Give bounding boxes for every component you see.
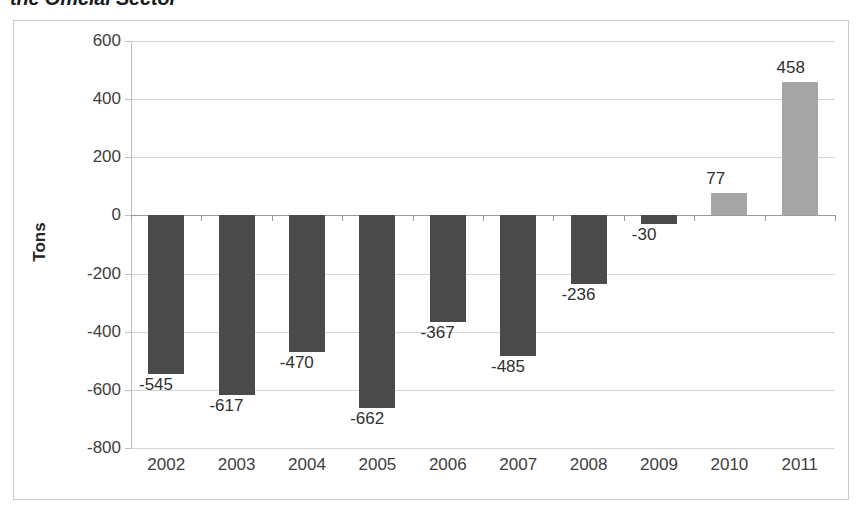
x-axis-tick-mark <box>483 215 484 221</box>
x-axis-tick-label: 2009 <box>624 455 694 475</box>
x-axis-tick-label: 2010 <box>694 455 764 475</box>
x-axis-tick-labels: 2002200320042005200620072008200920102011 <box>131 455 835 485</box>
x-axis-tick-mark <box>201 215 202 221</box>
x-axis-tick-label: 2005 <box>342 455 412 475</box>
y-axis-tick-mark <box>125 448 131 449</box>
x-axis-tick-label: 2007 <box>483 455 553 475</box>
bar[interactable] <box>430 215 466 322</box>
x-axis-tick-mark <box>624 215 625 221</box>
bar[interactable] <box>359 215 395 407</box>
gridline <box>131 448 835 449</box>
bar-data-label: -485 <box>491 357 525 377</box>
x-axis-tick-mark <box>272 215 273 221</box>
y-axis-tick-mark <box>125 41 131 42</box>
bar-data-label: -662 <box>350 409 384 429</box>
bar-data-label: -30 <box>632 225 657 245</box>
bar[interactable] <box>289 215 325 352</box>
x-axis-tick-label: 2003 <box>201 455 271 475</box>
y-axis-tick-mark <box>125 157 131 158</box>
bar-slot: -30 <box>624 41 694 448</box>
bar-data-label: -367 <box>421 323 455 343</box>
x-axis-tick-mark <box>413 215 414 221</box>
y-axis-tick-label: -800 <box>41 438 121 458</box>
bar-slot: -662 <box>342 41 412 448</box>
bar-data-label: 77 <box>706 169 725 189</box>
bar[interactable] <box>782 82 818 215</box>
bar-slot: 458 <box>765 41 835 448</box>
y-axis-tick-mark <box>125 274 131 275</box>
bar[interactable] <box>219 215 255 394</box>
y-axis-tick-mark <box>125 332 131 333</box>
x-axis-tick-mark <box>765 215 766 221</box>
bar-data-label: -617 <box>209 396 243 416</box>
bar-slot: -470 <box>272 41 342 448</box>
x-axis-tick-label: 2006 <box>413 455 483 475</box>
y-axis-tick-label: -400 <box>41 322 121 342</box>
bar-slot: -485 <box>483 41 553 448</box>
bar[interactable] <box>148 215 184 373</box>
x-axis-tick-mark <box>835 215 836 221</box>
x-axis-tick-label: 2004 <box>272 455 342 475</box>
y-axis-tick-label: -200 <box>41 264 121 284</box>
x-axis-tick-label: 2008 <box>553 455 623 475</box>
chart-title: the Official Sector <box>10 0 177 10</box>
y-axis-tick-mark <box>125 99 131 100</box>
y-axis-tick-label: 600 <box>41 31 121 51</box>
x-axis-tick-mark <box>342 215 343 221</box>
y-axis-tick-label: 400 <box>41 89 121 109</box>
bar[interactable] <box>711 193 747 215</box>
y-axis-tick-labels: 6004002000-200-400-600-800 <box>41 41 121 448</box>
bar[interactable] <box>500 215 536 356</box>
bar[interactable] <box>571 215 607 284</box>
x-axis-tick-label: 2011 <box>765 455 835 475</box>
x-axis-tick-label: 2002 <box>131 455 201 475</box>
bar-slot: 77 <box>694 41 764 448</box>
y-axis-tick-label: -600 <box>41 380 121 400</box>
bar-series: -545-617-470-662-367-485-236-3077458 <box>131 41 835 448</box>
bar-data-label: -545 <box>139 375 173 395</box>
bar-data-label: -236 <box>561 285 595 305</box>
x-axis-tick-mark <box>694 215 695 221</box>
bar[interactable] <box>641 215 677 224</box>
bar-data-label: -470 <box>280 353 314 373</box>
y-axis-tick-label: 0 <box>41 205 121 225</box>
bar-slot: -617 <box>201 41 271 448</box>
x-axis-tick-mark <box>131 215 132 221</box>
y-axis-tick-label: 200 <box>41 147 121 167</box>
bar-slot: -236 <box>553 41 623 448</box>
bar-slot: -545 <box>131 41 201 448</box>
y-axis-tick-mark <box>125 390 131 391</box>
bar-slot: -367 <box>413 41 483 448</box>
bar-data-label: 458 <box>777 58 805 78</box>
x-axis-tick-mark <box>553 215 554 221</box>
